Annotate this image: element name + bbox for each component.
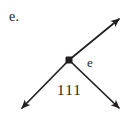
figure-canvas: e. e 111 xyxy=(0,0,133,120)
vertex-node xyxy=(66,57,73,64)
node-label: e xyxy=(87,56,93,69)
vector-diagram xyxy=(0,0,133,120)
part-label: e. xyxy=(9,10,19,24)
bottom-label: 111 xyxy=(57,83,82,98)
ray-upper-right xyxy=(69,19,119,60)
